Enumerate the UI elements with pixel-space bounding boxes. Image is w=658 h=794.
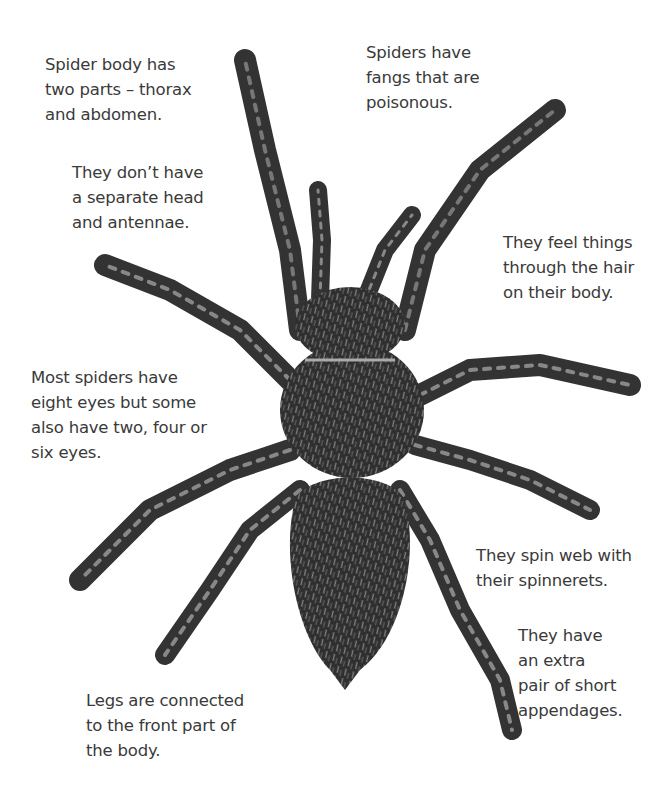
label-body-parts: Spider body has two parts – thorax and a… (45, 52, 192, 127)
label-fangs: Spiders have fangs that are poisonous. (366, 40, 479, 115)
spider-thorax (280, 342, 424, 478)
label-no-head: They don’t have a separate head and ante… (72, 160, 204, 235)
label-eyes: Most spiders have eight eyes but some al… (31, 365, 207, 465)
label-hair: They feel things through the hair on the… (503, 230, 634, 305)
spider-abdomen (290, 478, 410, 691)
label-appendages: They have an extra pair of short appenda… (518, 623, 623, 723)
label-spinnerets: They spin web with their spinnerets. (476, 543, 632, 593)
label-legs: Legs are connected to the front part of … (86, 688, 244, 763)
